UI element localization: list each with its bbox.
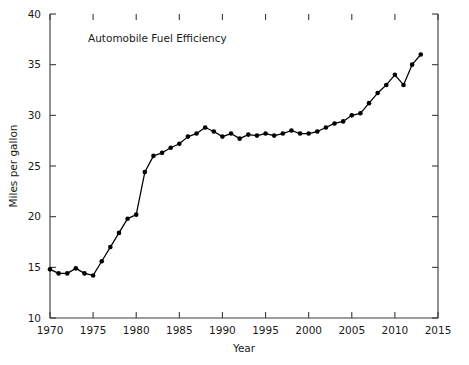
x-tick-label: 1995 — [252, 324, 279, 336]
data-point — [65, 271, 70, 276]
data-point — [298, 131, 303, 136]
data-point — [229, 131, 234, 136]
data-point — [220, 134, 225, 139]
data-point — [410, 62, 415, 67]
data-point — [246, 132, 251, 137]
data-point — [108, 245, 113, 250]
data-point — [56, 271, 61, 276]
data-point — [401, 83, 406, 88]
data-point — [358, 111, 363, 116]
x-tick-label: 2005 — [338, 324, 365, 336]
data-point — [272, 133, 277, 138]
data-point — [91, 273, 96, 278]
data-point — [418, 52, 423, 57]
data-point — [367, 101, 372, 106]
data-point — [151, 154, 156, 159]
data-point — [99, 259, 104, 264]
chart-figure: 10152025303540 1970197519801985199019952… — [0, 0, 469, 365]
data-point — [74, 266, 79, 271]
data-point — [237, 136, 242, 141]
figure-background — [0, 0, 469, 365]
data-point — [186, 134, 191, 139]
data-point — [393, 73, 398, 78]
fuel-efficiency-line-chart: 10152025303540 1970197519801985199019952… — [0, 0, 469, 365]
data-point — [349, 113, 354, 118]
y-tick-label: 40 — [28, 8, 41, 20]
data-point — [212, 129, 217, 134]
x-tick-label: 1970 — [37, 324, 64, 336]
x-tick-label: 2000 — [295, 324, 322, 336]
data-point — [384, 83, 389, 88]
data-point — [263, 131, 268, 136]
data-point — [177, 141, 182, 146]
data-point — [48, 267, 53, 272]
x-tick-label: 2010 — [382, 324, 409, 336]
data-point — [324, 125, 329, 130]
data-point — [306, 131, 311, 136]
y-tick-label: 15 — [28, 261, 41, 273]
data-point — [375, 91, 380, 96]
data-point — [160, 151, 165, 156]
data-point — [82, 271, 87, 276]
data-point — [143, 170, 148, 175]
x-tick-label: 1985 — [166, 324, 193, 336]
data-point — [315, 129, 320, 134]
y-tick-label: 30 — [28, 109, 41, 121]
data-point — [134, 212, 139, 217]
data-point — [255, 133, 260, 138]
data-point — [168, 145, 173, 150]
x-tick-label: 1980 — [123, 324, 150, 336]
data-point — [332, 121, 337, 126]
data-point — [289, 128, 294, 133]
y-tick-label: 35 — [28, 58, 41, 70]
data-point — [281, 131, 286, 136]
data-point — [117, 231, 122, 236]
x-tick-label: 1990 — [209, 324, 236, 336]
data-point — [203, 125, 208, 130]
x-tick-label: 2015 — [425, 324, 452, 336]
data-point — [194, 131, 199, 136]
y-axis-title: Miles per gallon — [7, 125, 19, 208]
y-tick-label: 20 — [28, 210, 41, 222]
data-point — [341, 119, 346, 124]
x-axis-title: Year — [232, 342, 256, 354]
chart-title: Automobile Fuel Efficiency — [88, 32, 227, 44]
y-tick-label: 25 — [28, 160, 41, 172]
data-point — [125, 216, 130, 221]
x-tick-label: 1975 — [80, 324, 107, 336]
y-tick-label: 10 — [28, 312, 41, 324]
